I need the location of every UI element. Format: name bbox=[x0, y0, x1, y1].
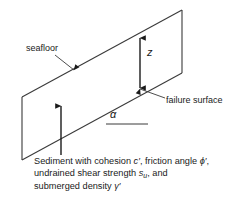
caption-text: submerged density bbox=[34, 181, 114, 191]
failure-surface-label: failure surface bbox=[166, 95, 223, 106]
depth-symbol-label: z bbox=[147, 47, 153, 58]
sediment-slab bbox=[22, 10, 182, 160]
caption-line-2: undrained shear strength su, and bbox=[34, 168, 239, 182]
slope-stability-figure: seafloor failure surface z α Sediment wi… bbox=[0, 0, 250, 201]
caption-line-1: Sediment with cohesion c′, friction angl… bbox=[34, 156, 239, 168]
caption-text: undrained shear strength bbox=[34, 168, 139, 178]
failure-surface-line bbox=[22, 73, 182, 160]
seafloor-leader bbox=[55, 55, 74, 70]
slope-angle-label: α bbox=[110, 109, 116, 120]
caption-text: , and bbox=[147, 168, 167, 178]
submerged-density-symbol: γ′ bbox=[114, 181, 120, 191]
caption-line-3: submerged density γ′ bbox=[34, 181, 239, 193]
caption-text: , friction angle bbox=[140, 156, 200, 166]
caption-text: , bbox=[207, 156, 210, 166]
friction-angle-symbol: ϕ′ bbox=[200, 156, 207, 166]
figure-caption: Sediment with cohesion c′, friction angl… bbox=[34, 156, 239, 193]
seafloor-label: seafloor bbox=[26, 43, 58, 54]
caption-text: Sediment with cohesion bbox=[34, 156, 134, 166]
